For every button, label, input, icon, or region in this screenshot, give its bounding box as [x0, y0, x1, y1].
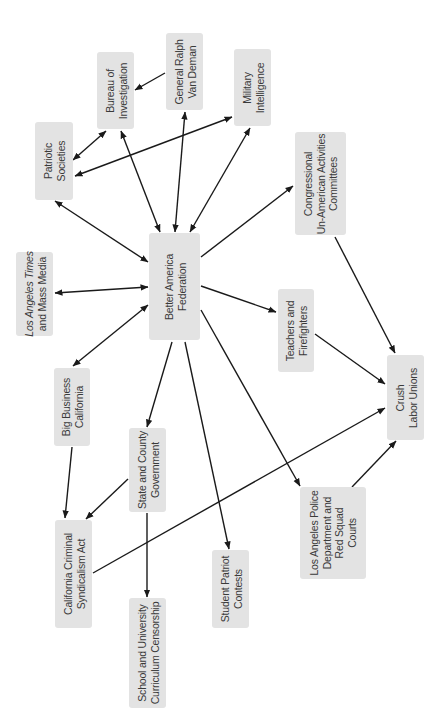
node-label-line: Teachers and [284, 300, 296, 361]
node-label-line: Los Angeles Times [22, 251, 34, 336]
node-label-line: Patriotic [42, 143, 54, 179]
node-label-line: Department and [321, 497, 333, 570]
node-label-line: School and University [135, 604, 147, 701]
node-patriotic-societies: PatrioticSocieties [35, 122, 73, 200]
node-label: Big BusinessCalifornia [60, 378, 85, 436]
node-label-line: California Criminal [61, 533, 73, 615]
node-school-curriculum-censorship: School and UniversityCurriculum Censorsh… [129, 598, 166, 708]
node-label-line: Congressional [302, 151, 314, 216]
node-label: Better AmericaFederation [162, 253, 187, 319]
edge-congress-to-crush [335, 237, 395, 353]
node-label-line: Los Angeles Police [308, 490, 320, 575]
edge-vandeman-to-bureau [135, 73, 165, 90]
node-label-line: Federation [175, 262, 187, 310]
node-label: California CriminalSyndicalism Act [61, 533, 86, 615]
node-label-line: Crush [393, 384, 405, 411]
node-label-line: Van Deman [185, 45, 197, 98]
node-label-line: Student Patriot [218, 556, 230, 622]
node-label-line: Military [240, 72, 252, 104]
node-crush-labor-unions: CrushLabor Unions [387, 355, 424, 440]
node-label-line: Curriculum Censorship [148, 602, 160, 705]
node-label-line: Better America [162, 253, 174, 319]
node-lapd-red-squad-courts: Los Angeles PoliceDepartment andRed Squa… [300, 487, 366, 579]
node-label: State and CountyGovernment [135, 431, 160, 509]
node-label: PatrioticSocieties [42, 141, 67, 182]
node-label: School and UniversityCurriculum Censorsh… [135, 602, 160, 705]
edge-baf-to-bigbiz [73, 305, 148, 366]
node-label: Los Angeles PoliceDepartment andRed Squa… [308, 490, 358, 575]
node-label-line: and Mass Media [35, 257, 47, 331]
node-label: Los Angeles Timesand Mass Media [22, 251, 47, 336]
node-label: CongressionalUn-American ActivitiesCommi… [302, 133, 340, 234]
node-congressional-committees: CongressionalUn-American ActivitiesCommi… [295, 132, 346, 235]
node-label-line: Investigation [116, 62, 128, 118]
node-label-line: Committees [327, 156, 339, 210]
node-bureau-of-investigation: Bureau ofInvestigation [97, 52, 134, 129]
edge-baf-to-congress [201, 186, 293, 257]
node-state-county-government: State and CountyGovernment [129, 428, 166, 512]
node-label: Teachers andFirefighters [284, 300, 309, 361]
node-label-line: Courts [346, 518, 358, 548]
node-student-patriot-contests: Student PatriotContests [212, 550, 249, 628]
node-label-line: Bureau of [103, 69, 115, 113]
node-better-america-federation: Better AmericaFederation [149, 233, 200, 340]
node-label: General RalphVan Deman [172, 39, 197, 104]
node-label-line: State and County [135, 431, 147, 509]
node-label: Bureau ofInvestigation [103, 62, 128, 118]
node-label-line: California [72, 386, 84, 428]
node-label-line: Syndicalism Act [74, 539, 86, 610]
node-military-intelligence: MilitaryIntelligence [234, 49, 271, 126]
node-california-criminal-syndicalism-act: California CriminalSyndicalism Act [55, 520, 92, 628]
edge-baf-to-teachers [147, 342, 172, 427]
edge-state-to-ccsa [86, 479, 128, 519]
edge-patriotic-to-bureau [73, 131, 106, 160]
node-general-ralph-van-deman: General RalphVan Deman [166, 33, 203, 110]
node-label-line: Firefighters [296, 305, 308, 355]
edge-baf-to-military [190, 128, 250, 232]
node-label-line: Government [148, 442, 160, 498]
node-label: CrushLabor Unions [393, 367, 418, 427]
node-label-line: Intelligence [253, 62, 265, 113]
edge-baf-to-patriotic [55, 201, 148, 262]
node-label-line: Labor Unions [406, 367, 418, 427]
edge-baf-to-lapd [201, 286, 276, 312]
node-label: Student PatriotContests [218, 556, 243, 622]
edge-bigbiz-to-ccsa [65, 447, 72, 518]
node-label-line: Contests [231, 569, 243, 609]
node-label-line: Societies [54, 141, 66, 182]
node-los-angeles-times: Los Angeles Timesand Mass Media [16, 252, 53, 336]
node-big-business-california: Big BusinessCalifornia [54, 368, 90, 446]
node-label: MilitaryIntelligence [240, 62, 265, 113]
edge-lapd-to-crush [352, 441, 396, 487]
node-teachers-firefighters: Teachers andFirefighters [278, 289, 314, 372]
node-label-line: General Ralph [172, 39, 184, 104]
node-label-line: Red Squad [333, 508, 345, 559]
edge-teachers-to-crush [315, 334, 385, 384]
node-label-line: Un-American Activities [314, 133, 326, 234]
edge-baf-to-vandeman [175, 112, 185, 232]
node-label-line: Big Business [60, 378, 72, 436]
edge-baf-to-latimes [55, 287, 148, 293]
